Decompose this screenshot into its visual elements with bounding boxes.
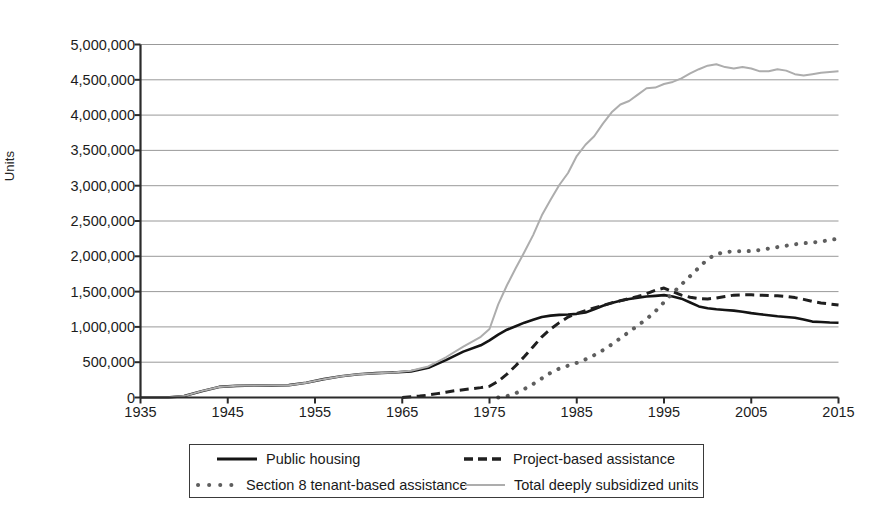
- dotted-line-swatch-icon: [196, 479, 238, 491]
- series-line-0: [141, 295, 839, 397]
- solid-gray-line-swatch-icon: [464, 479, 506, 491]
- chart-figure: Units 0500,0001,000,0001,500,0002,000,00…: [0, 0, 883, 528]
- legend-row-2: Section 8 tenant-based assistance Total …: [190, 471, 703, 498]
- legend-item-section-8-tenant-based-assistance: Section 8 tenant-based assistance: [190, 477, 456, 493]
- legend-label: Total deeply subsidized units: [514, 477, 699, 493]
- legend-item-public-housing: Public housing: [190, 451, 455, 467]
- series-line-1: [402, 288, 838, 397]
- chart-legend: Public housing Project-based assistance …: [189, 444, 704, 498]
- legend-label: Section 8 tenant-based assistance: [246, 477, 468, 493]
- solid-line-swatch-icon: [216, 453, 258, 465]
- legend-label: Project-based assistance: [513, 451, 675, 467]
- legend-row-1: Public housing Project-based assistance: [190, 445, 703, 472]
- legend-item-project-based-assistance: Project-based assistance: [455, 451, 703, 467]
- dashed-line-swatch-icon: [463, 453, 505, 465]
- legend-label: Public housing: [266, 451, 360, 467]
- legend-item-total-deeply-subsidized-units: Total deeply subsidized units: [456, 477, 703, 493]
- series-line-3: [141, 64, 839, 397]
